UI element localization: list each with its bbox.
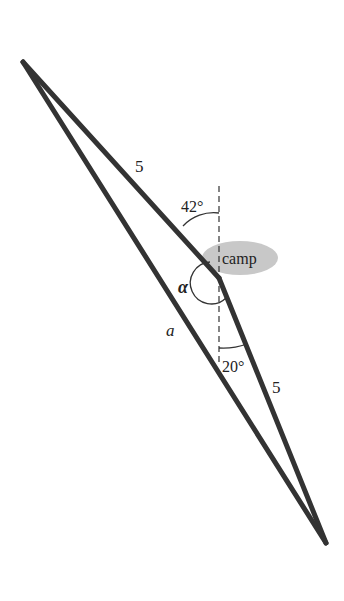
label-angle-20: 20°	[222, 358, 244, 375]
label-angle-42: 42°	[181, 198, 203, 215]
side-start-to-camp	[23, 62, 219, 278]
side-camp-to-end	[219, 278, 326, 543]
label-side-5-bottom: 5	[272, 378, 281, 397]
label-side-5-top: 5	[135, 157, 144, 176]
angle-arc-20	[219, 344, 247, 348]
label-alpha: α	[178, 277, 189, 297]
label-side-a: a	[166, 321, 175, 340]
side-a-start-to-end	[23, 62, 326, 543]
triangle-diagram: 5 42° camp α a 20° 5	[0, 0, 344, 601]
label-camp: camp	[222, 250, 257, 268]
